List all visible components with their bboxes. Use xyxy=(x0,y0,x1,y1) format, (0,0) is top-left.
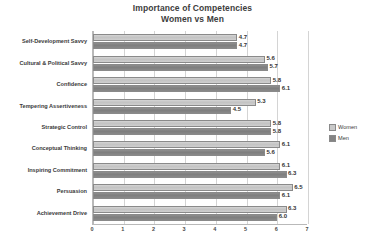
bar-group: 5.85.8 xyxy=(93,120,307,135)
y-axis-label-self-development-savvy: Self-Development Savvy xyxy=(22,38,87,45)
bar-value-label-men: 5.7 xyxy=(270,63,278,70)
bar-group: 5.34.5 xyxy=(93,99,307,114)
x-axis-line xyxy=(92,224,307,225)
x-tick-label-5: 5 xyxy=(244,226,247,232)
bar-men[interactable] xyxy=(93,64,268,71)
bar-value-label-women: 6.1 xyxy=(282,162,290,169)
bar-men[interactable] xyxy=(93,214,277,221)
plot-area: 4.74.75.65.75.86.15.34.55.85.86.15.66.16… xyxy=(92,31,307,224)
y-axis-label-cultural-political-savvy: Cultural & Political Savvy xyxy=(20,60,87,67)
x-tick-label-3: 3 xyxy=(183,226,186,232)
x-axis-tick-labels: 01234567 xyxy=(92,226,307,238)
bar-women[interactable] xyxy=(93,184,293,191)
bar-value-label-women: 5.6 xyxy=(267,55,275,62)
bar-women[interactable] xyxy=(93,120,271,127)
y-axis-label-persuasion: Persuasion xyxy=(57,188,87,195)
x-tick-label-1: 1 xyxy=(121,226,124,232)
y-axis-label-inspiring-commitment: Inspiring Commitment xyxy=(28,167,87,174)
y-axis-category-labels: Self-Development SavvyCultural & Politic… xyxy=(0,31,90,224)
legend-label-men: Men xyxy=(338,135,349,142)
legend-item-women[interactable]: Women xyxy=(329,124,383,131)
bar-value-label-men: 6.0 xyxy=(279,213,287,220)
bar-group: 6.36.0 xyxy=(93,206,307,221)
bar-group: 6.15.6 xyxy=(93,141,307,156)
legend-label-women: Women xyxy=(338,124,357,131)
bar-value-label-women: 5.8 xyxy=(273,120,281,127)
x-tick-label-6: 6 xyxy=(275,226,278,232)
bar-value-label-women: 6.3 xyxy=(288,205,296,212)
x-tick-label-2: 2 xyxy=(152,226,155,232)
x-tick-label-7: 7 xyxy=(305,226,308,232)
bar-men[interactable] xyxy=(93,107,231,114)
bar-women[interactable] xyxy=(93,141,280,148)
y-axis-label-conceptual-thinking: Conceptual Thinking xyxy=(32,145,87,152)
bar-women[interactable] xyxy=(93,34,237,41)
gridline-7 xyxy=(308,31,309,224)
bar-rows: 4.74.75.65.75.86.15.34.55.85.86.15.66.16… xyxy=(93,31,307,224)
bar-men[interactable] xyxy=(93,42,237,49)
bar-value-label-men: 6.1 xyxy=(282,192,290,199)
bar-men[interactable] xyxy=(93,149,265,156)
x-tick-label-4: 4 xyxy=(213,226,216,232)
bar-group: 6.56.1 xyxy=(93,184,307,199)
bar-women[interactable] xyxy=(93,56,265,63)
bar-value-label-men: 4.7 xyxy=(239,42,247,49)
bar-value-label-men: 6.1 xyxy=(282,85,290,92)
legend-swatch-men-icon xyxy=(329,135,336,142)
bar-men[interactable] xyxy=(93,192,280,199)
bar-women[interactable] xyxy=(93,163,280,170)
bar-group: 5.86.1 xyxy=(93,77,307,92)
bar-women[interactable] xyxy=(93,99,256,106)
legend-swatch-women-icon xyxy=(329,124,336,131)
bar-group: 5.65.7 xyxy=(93,56,307,71)
y-axis-label-achievement-drive: Achievement Drive xyxy=(37,210,87,217)
bar-women[interactable] xyxy=(93,77,271,84)
x-tick-label-0: 0 xyxy=(90,226,93,232)
bar-value-label-women: 5.3 xyxy=(257,98,265,105)
bar-group: 6.16.3 xyxy=(93,163,307,178)
bar-value-label-men: 6.3 xyxy=(288,170,296,177)
bar-men[interactable] xyxy=(93,128,271,135)
chart-legend: Women Men xyxy=(329,124,383,146)
y-axis-label-strategic-control: Strategic Control xyxy=(42,124,87,131)
bar-value-label-women: 5.8 xyxy=(273,77,281,84)
bar-men[interactable] xyxy=(93,171,287,178)
bar-group: 4.74.7 xyxy=(93,34,307,49)
y-axis-label-tempering-assertiveness: Tempering Assertiveness xyxy=(20,103,87,110)
bar-value-label-men: 4.5 xyxy=(233,106,241,113)
bar-value-label-men: 5.6 xyxy=(267,149,275,156)
bar-value-label-women: 4.7 xyxy=(239,34,247,41)
y-axis-label-confidence: Confidence xyxy=(57,81,87,88)
chart-title: Importance of Competencies Women vs Men xyxy=(0,3,385,24)
legend-item-men[interactable]: Men xyxy=(329,135,383,142)
chart-title-line-1: Importance of Competencies xyxy=(0,3,385,14)
bar-men[interactable] xyxy=(93,85,280,92)
bar-value-label-women: 6.1 xyxy=(282,141,290,148)
chart-title-line-2: Women vs Men xyxy=(0,14,385,25)
bar-women[interactable] xyxy=(93,206,287,213)
bar-value-label-women: 6.5 xyxy=(294,184,302,191)
bar-value-label-men: 5.8 xyxy=(273,128,281,135)
